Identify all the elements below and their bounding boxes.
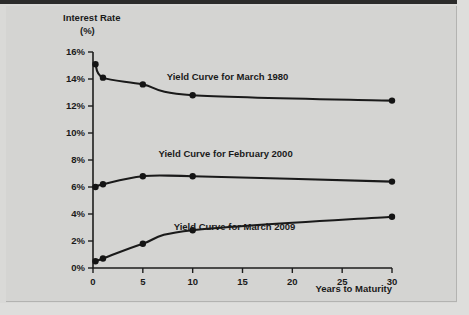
x-tick-label: 15 (237, 276, 248, 287)
y-tick-label: 8% (71, 154, 85, 165)
x-tick-label: 20 (287, 276, 298, 287)
data-point (100, 74, 106, 80)
data-point (92, 184, 98, 190)
y-axis-units: (%) (80, 25, 95, 36)
x-tick-label: 10 (187, 276, 198, 287)
y-axis-tick-labels: 0%2%4%6%8%10%12%14%16% (66, 46, 86, 273)
x-axis-title: Years to Maturity (315, 283, 392, 294)
data-point (140, 173, 146, 179)
data-point (389, 214, 395, 220)
data-point (92, 258, 98, 264)
data-point (100, 181, 106, 187)
series-line-0 (95, 64, 392, 100)
data-point (389, 178, 395, 184)
data-point (189, 173, 195, 179)
data-point (100, 255, 106, 261)
x-tick-label: 5 (140, 276, 146, 287)
figure-container: Interest Rate (%) 0%2%4%6%8%10%12%14%16%… (0, 0, 469, 315)
y-axis-title: Interest Rate (63, 12, 121, 23)
data-point (92, 61, 98, 67)
data-point (389, 97, 395, 103)
series-annotations: Yield Curve for March 1980Yield Curve fo… (158, 71, 295, 232)
data-point (189, 92, 195, 98)
data-point (140, 81, 146, 87)
y-tick-label: 2% (71, 235, 85, 246)
y-tick-label: 16% (66, 46, 86, 57)
data-point (140, 241, 146, 247)
y-tick-label: 14% (66, 73, 86, 84)
series-data-points (92, 61, 395, 264)
y-tick-label: 10% (66, 127, 86, 138)
series-annotation-1: Yield Curve for February 2000 (158, 148, 292, 159)
y-tick-label: 0% (71, 262, 85, 273)
yield-curve-chart: Interest Rate (%) 0%2%4%6%8%10%12%14%16%… (0, 0, 469, 315)
y-tick-label: 6% (71, 181, 85, 192)
series-annotation-0: Yield Curve for March 1980 (167, 71, 289, 82)
y-tick-label: 12% (66, 100, 86, 111)
x-tick-label: 0 (90, 276, 95, 287)
y-tick-label: 4% (71, 208, 85, 219)
series-annotation-2: Yield Curve for March 2009 (174, 221, 296, 232)
